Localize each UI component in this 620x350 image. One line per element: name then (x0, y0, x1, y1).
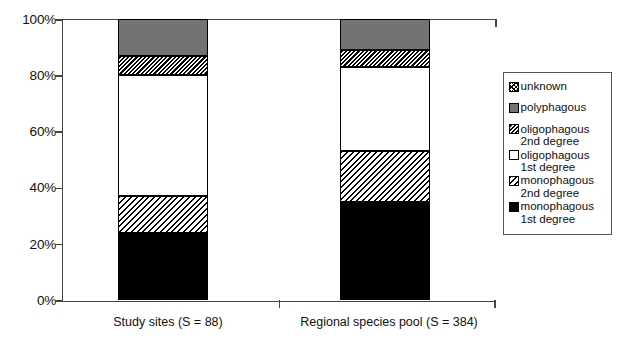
y-axis-tickmark-40 (55, 188, 62, 190)
legend-item-oligophagous-2nd-degree[interactable]: oligophagous 2nd degree (509, 123, 607, 148)
plot-right-edge (495, 19, 497, 27)
y-axis-tickmark-100 (55, 19, 62, 21)
y-axis-tickmark-0 (55, 300, 62, 302)
legend: unknown polyphagous oligophagous 2nd deg… (503, 72, 612, 235)
legend-label-monophagous-2nd-degree: monophagous 2nd degree (521, 174, 595, 199)
y-axis-tick-label-40: 40% (0, 181, 56, 195)
legend-item-monophagous-2nd-degree[interactable]: monophagous 2nd degree (509, 174, 607, 199)
legend-item-oligophagous-1st-degree[interactable]: oligophagous 1st degree (509, 149, 607, 174)
black-swatch-icon (509, 202, 519, 212)
white-swatch-icon (509, 150, 519, 160)
bar-segment-polyphagous (119, 19, 207, 56)
crosshatch-swatch-icon (509, 82, 519, 92)
legend-label-monophagous-1st-degree: monophagous 1st degree (521, 200, 595, 225)
legend-label-unknown: unknown (521, 80, 567, 92)
y-axis-tickmark-60 (55, 131, 62, 133)
y-axis-tick-label-20: 20% (0, 238, 56, 252)
bar-regional-species-pool (340, 19, 430, 300)
bar-segment-oligophagous-1st-degree (119, 75, 207, 196)
bar-segment-monophagous-2nd-degree (119, 196, 207, 233)
legend-label-oligophagous-2nd-degree: oligophagous 2nd degree (521, 123, 590, 148)
bar-segment-polyphagous (341, 19, 429, 50)
legend-item-unknown[interactable]: unknown (509, 80, 607, 92)
legend-item-polyphagous[interactable]: polyphagous (509, 101, 607, 113)
x-axis-tickmark-center (279, 300, 281, 308)
legend-item-monophagous-1st-degree[interactable]: monophagous 1st degree (509, 200, 607, 225)
x-axis-label-study-sites: Study sites (S = 88) (63, 315, 273, 329)
x-axis-tickmark-right (494, 300, 496, 308)
bar-study-sites (118, 19, 208, 300)
bar-segment-oligophagous-1st-degree (341, 67, 429, 151)
bar-segment-monophagous-1st-degree (119, 233, 207, 301)
stacked-bar-chart: 100% 80% 60% 40% 20% 0% (0, 0, 620, 350)
y-axis-tick-label-100: 100% (0, 13, 56, 27)
hatch-swatch-icon (509, 176, 519, 186)
legend-label-polyphagous: polyphagous (521, 101, 587, 113)
bar-segment-monophagous-1st-degree (341, 202, 429, 300)
gray-swatch-icon (509, 103, 519, 113)
bar-segment-monophagous-2nd-degree (341, 151, 429, 202)
legend-label-oligophagous-1st-degree: oligophagous 1st degree (521, 149, 590, 174)
dense-hatch-swatch-icon (509, 124, 519, 134)
y-axis-tick-label-80: 80% (0, 69, 56, 83)
bar-segment-oligophagous-2nd-degree (341, 50, 429, 67)
y-axis-tick-label-0: 0% (0, 294, 56, 308)
y-axis-tickmark-80 (55, 75, 62, 77)
y-axis-tick-label-60: 60% (0, 125, 56, 139)
bar-segment-oligophagous-2nd-degree (119, 56, 207, 76)
x-axis-label-regional-pool: Regional species pool (S = 384) (283, 315, 495, 329)
y-axis-tickmark-20 (55, 244, 62, 246)
